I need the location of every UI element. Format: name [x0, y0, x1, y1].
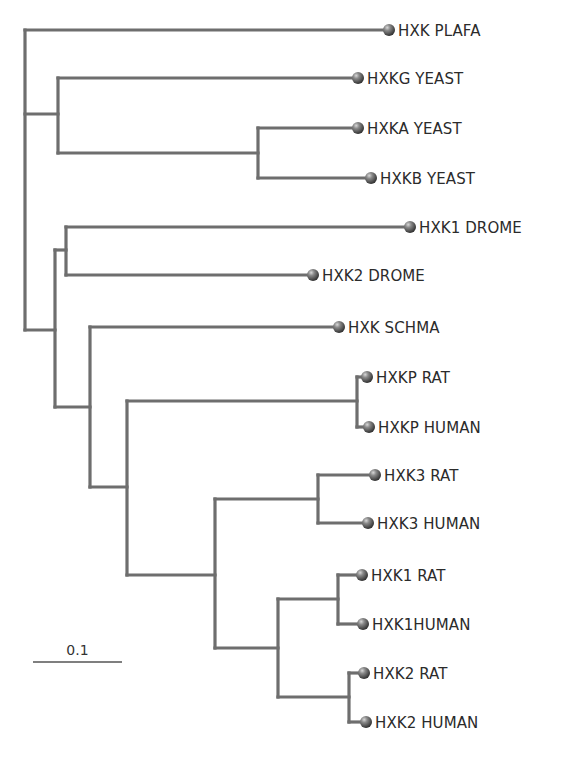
leaf-hxk1-human: HXK1HUMAN	[357, 616, 471, 634]
leaf-hxk2-drome: HXK2 DROME	[307, 267, 425, 285]
node-ball-icon	[352, 72, 364, 84]
node-ball-icon	[356, 569, 368, 581]
leaf-hxkb-yeast: HXKB YEAST	[365, 170, 476, 188]
leaf-hxk3-human: HXK3 HUMAN	[362, 515, 480, 533]
node-ball-icon	[361, 371, 373, 383]
leaf-label: HXKB YEAST	[380, 170, 476, 188]
leaf-label: HXK1HUMAN	[372, 616, 471, 634]
leaf-hxk3-rat: HXK3 RAT	[369, 467, 459, 485]
leaf-label: HXKG YEAST	[367, 70, 464, 88]
node-ball-icon	[365, 172, 377, 184]
node-ball-icon	[357, 618, 369, 630]
leaf-hxk2-human: HXK2 HUMAN	[360, 714, 478, 732]
leaf-label: HXKA YEAST	[367, 120, 462, 138]
leaf-label: HXK2 DROME	[322, 267, 425, 285]
node-ball-icon	[363, 421, 375, 433]
node-ball-icon	[369, 469, 381, 481]
leaf-label: HXK SCHMA	[348, 319, 440, 337]
node-ball-icon	[362, 517, 374, 529]
leaf-label: HXK1 DROME	[419, 219, 522, 237]
leaf-hxkp-rat: HXKP RAT	[361, 369, 451, 387]
tree-branches	[25, 30, 410, 722]
leaf-label: HXK1 RAT	[371, 567, 446, 585]
leaf-hxk1-drome: HXK1 DROME	[404, 219, 522, 237]
node-ball-icon	[358, 667, 370, 679]
leaf-hxka-yeast: HXKA YEAST	[352, 120, 462, 138]
scale-bar: 0.1	[33, 642, 122, 662]
leaf-hxk-plafa: HXK PLAFA	[383, 22, 481, 40]
node-ball-icon	[404, 221, 416, 233]
leaf-hxk2-rat: HXK2 RAT	[358, 665, 448, 683]
leaf-label: HXK2 HUMAN	[375, 714, 478, 732]
node-ball-icon	[333, 321, 345, 333]
leaf-label: HXK PLAFA	[398, 22, 481, 40]
leaf-hxk-schma: HXK SCHMA	[333, 319, 440, 337]
leaf-hxk1-rat: HXK1 RAT	[356, 567, 446, 585]
scale-bar-label: 0.1	[66, 642, 88, 658]
leaf-hxkg-yeast: HXKG YEAST	[352, 70, 464, 88]
leaf-hxkp-human: HXKP HUMAN	[363, 419, 481, 437]
leaf-label: HXK3 HUMAN	[377, 515, 480, 533]
leaf-label: HXK3 RAT	[384, 467, 459, 485]
leaf-label: HXKP RAT	[376, 369, 451, 387]
node-ball-icon	[360, 716, 372, 728]
node-ball-icon	[383, 24, 395, 36]
node-ball-icon	[352, 122, 364, 134]
leaf-label: HXKP HUMAN	[378, 419, 481, 437]
node-ball-icon	[307, 269, 319, 281]
leaf-label: HXK2 RAT	[373, 665, 448, 683]
phylogenetic-tree: HXK PLAFAHXKG YEASTHXKA YEASTHXKB YEASTH…	[0, 0, 575, 759]
